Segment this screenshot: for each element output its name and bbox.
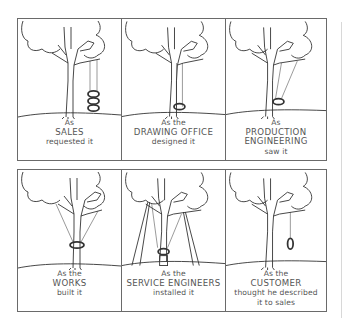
caption-line: built it: [18, 288, 121, 298]
caption-line: designed it: [122, 137, 225, 147]
panel-customer: As the CUSTOMER thought he described it …: [225, 170, 326, 311]
caption-line: it to sales: [226, 298, 326, 308]
caption-line: thought he described: [226, 288, 326, 298]
caption-service-engineers: As the SERVICE ENGINEERS installed it: [122, 269, 225, 298]
panel-service-engineers: As the SERVICE ENGINEERS installed it: [121, 170, 225, 311]
panel-production-engineering: As PRODUCTION ENGINEERING saw it: [225, 19, 326, 160]
cartoon-strip-top: As SALES requested it As the DRAWING OFF…: [17, 18, 327, 161]
caption-department: SERVICE ENGINEERS: [122, 279, 225, 289]
cartoon-strip-bottom: As the WORKS built it As the SERVICE ENG…: [17, 169, 327, 312]
tree-swing-drawing: [122, 170, 225, 270]
tree-swing-drawing: [18, 170, 121, 270]
tree-swing-drawing: [226, 170, 326, 270]
caption-department: CUSTOMER: [226, 279, 326, 289]
caption-customer: As the CUSTOMER thought he described it …: [226, 269, 326, 307]
caption-department: ENGINEERING: [226, 137, 326, 147]
caption-line: installed it: [122, 288, 225, 298]
caption-sales: As SALES requested it: [18, 118, 121, 147]
tree-swing-drawing: [122, 19, 225, 119]
caption-line: saw it: [226, 147, 326, 157]
tree-swing-drawing: [226, 19, 326, 119]
caption-works: As the WORKS built it: [18, 269, 121, 298]
caption-drawing-office: As the DRAWING OFFICE designed it: [122, 118, 225, 147]
panel-works: As the WORKS built it: [18, 170, 121, 311]
panel-sales: As SALES requested it: [18, 19, 121, 160]
caption-department: WORKS: [18, 279, 121, 289]
caption-production-engineering: As PRODUCTION ENGINEERING saw it: [226, 118, 326, 156]
caption-department: DRAWING OFFICE: [122, 128, 225, 138]
caption-department: SALES: [18, 128, 121, 138]
caption-line: requested it: [18, 137, 121, 147]
tree-swing-drawing: [18, 19, 121, 119]
panel-drawing-office: As the DRAWING OFFICE designed it: [121, 19, 225, 160]
